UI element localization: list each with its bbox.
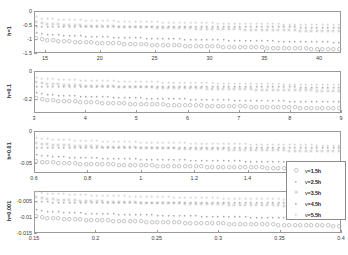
x-tick-mark <box>100 50 101 53</box>
x-tick-mark <box>87 170 88 173</box>
y-tick-label: -0.05 <box>2 160 32 166</box>
legend-item-1[interactable]: v=1.5h <box>287 165 345 176</box>
y-axis-label-panel-2: h=0.1 <box>6 70 12 112</box>
plot-panel-1 <box>34 11 341 53</box>
y-tick-mark <box>34 99 37 100</box>
x-tick-label: 1 <box>139 175 142 181</box>
x-tick-label: 30 <box>206 55 212 61</box>
x-tick-label: 6 <box>186 115 189 121</box>
x-tick-label: 0.4 <box>337 235 345 241</box>
legend-label-5: v=5.5h <box>305 212 321 218</box>
x-tick-mark <box>34 170 35 173</box>
legend: v=1.5hv=2.5hv=3.5hv=4.5hv=5.5h <box>286 161 346 220</box>
legend-label-1: v=1.5h <box>305 168 321 174</box>
x-tick-mark <box>136 110 137 113</box>
x-tick-mark <box>85 110 86 113</box>
x-tick-label: 1.2 <box>190 175 198 181</box>
x-tick-label: 15 <box>42 55 48 61</box>
figure-canvas: h=10-0.5-1-1.5152025303540h=0.10-0.23456… <box>0 0 348 255</box>
x-tick-mark <box>45 50 46 53</box>
x-tick-mark <box>155 50 156 53</box>
y-tick-mark <box>34 71 37 72</box>
x-tick-label: 0.6 <box>30 175 38 181</box>
x-tick-mark <box>239 110 240 113</box>
x-tick-mark <box>280 230 281 233</box>
x-tick-label: 3 <box>33 115 36 121</box>
x-tick-mark <box>34 230 35 233</box>
plot-panel-2 <box>34 71 341 113</box>
x-tick-mark <box>264 50 265 53</box>
x-tick-label: 0.35 <box>274 235 285 241</box>
x-tick-mark <box>290 110 291 113</box>
x-tick-mark <box>157 230 158 233</box>
y-tick-label: -1.5 <box>2 50 32 56</box>
y-tick-mark <box>34 53 37 54</box>
x-tick-mark <box>218 230 219 233</box>
x-tick-label: 4 <box>84 115 87 121</box>
y-tick-mark <box>34 11 37 12</box>
x-tick-mark <box>341 110 342 113</box>
x-tick-label: 0.3 <box>214 235 222 241</box>
x-tick-label: 35 <box>261 55 267 61</box>
legend-marker-star-icon <box>287 190 305 194</box>
x-tick-label: 0.8 <box>84 175 92 181</box>
x-tick-label: 8 <box>288 115 291 121</box>
y-tick-mark <box>34 39 37 40</box>
y-axis-label-panel-1: h=1 <box>6 10 12 52</box>
legend-item-3[interactable]: v=3.5h <box>287 187 345 198</box>
x-tick-mark <box>34 110 35 113</box>
legend-item-4[interactable]: v=4.5h <box>287 198 345 209</box>
x-tick-label: 40 <box>316 55 322 61</box>
y-tick-label: 0 <box>2 8 32 14</box>
y-tick-mark <box>34 131 37 132</box>
x-tick-label: 0.25 <box>152 235 163 241</box>
legend-marker-plus-icon <box>287 213 305 217</box>
x-tick-label: 5 <box>135 115 138 121</box>
y-tick-label: 0 <box>2 128 32 134</box>
x-tick-mark <box>209 50 210 53</box>
y-tick-mark <box>34 217 37 218</box>
y-tick-label: -0.2 <box>2 96 32 102</box>
legend-marker-circle-icon <box>287 168 305 173</box>
x-tick-label: 7 <box>237 115 240 121</box>
y-tick-mark <box>34 163 37 164</box>
y-tick-label: -0.005 <box>2 198 32 204</box>
x-tick-label: 0.2 <box>92 235 100 241</box>
y-axis-label-panel-4: h=0.001 <box>6 190 12 232</box>
x-tick-label: 20 <box>97 55 103 61</box>
legend-item-2[interactable]: v=2.5h <box>287 176 345 187</box>
legend-label-3: v=3.5h <box>305 190 321 196</box>
y-tick-label: -0.5 <box>2 22 32 28</box>
x-tick-label: 0.15 <box>29 235 40 241</box>
legend-marker-square-dot-icon <box>287 202 305 206</box>
y-tick-label: -1 <box>2 36 32 42</box>
x-tick-mark <box>141 170 142 173</box>
x-tick-mark <box>319 50 320 53</box>
legend-label-2: v=2.5h <box>305 179 321 185</box>
y-tick-label: -0.01 <box>2 214 32 220</box>
legend-label-4: v=4.5h <box>305 201 321 207</box>
legend-marker-dot-icon <box>287 180 305 184</box>
x-tick-mark <box>95 230 96 233</box>
x-tick-mark <box>188 110 189 113</box>
x-tick-label: 1.4 <box>244 175 252 181</box>
y-tick-mark <box>34 25 37 26</box>
x-tick-mark <box>341 230 342 233</box>
x-tick-mark <box>248 170 249 173</box>
y-tick-label: -0.015 <box>2 230 32 236</box>
y-tick-label: 0 <box>2 68 32 74</box>
x-tick-label: 25 <box>152 55 158 61</box>
x-tick-label: 9 <box>340 115 343 121</box>
legend-item-5[interactable]: v=5.5h <box>287 209 345 220</box>
x-tick-mark <box>194 170 195 173</box>
y-tick-mark <box>34 201 37 202</box>
